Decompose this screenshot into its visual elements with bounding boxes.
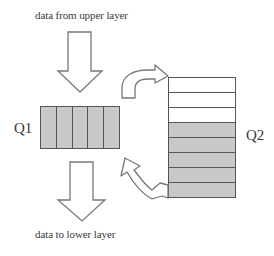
down-arrow-in-icon [58, 32, 102, 92]
curved-arrow-up-left-icon [121, 158, 168, 199]
queue-diagram: data from upper layer data to lower laye… [0, 0, 274, 256]
down-arrow-out-icon [58, 162, 105, 221]
curved-arrow-right-icon [122, 65, 168, 98]
arrows-layer [0, 0, 274, 256]
